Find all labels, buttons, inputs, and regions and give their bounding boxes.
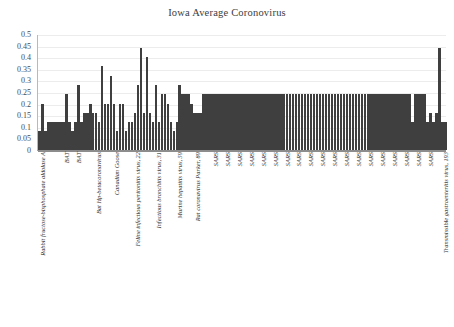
y-axis-tick-label: 0.1 xyxy=(21,124,31,132)
y-axis-tick-label: 0.25 xyxy=(17,89,31,97)
x-axis-tick-label: SARS xyxy=(368,152,374,166)
x-axis-tick-label: BAT xyxy=(76,152,82,163)
y-axis-tick-label: 0.05 xyxy=(17,135,31,143)
x-axis-tick-label: SARS xyxy=(308,152,314,166)
bar-series xyxy=(38,35,446,150)
x-axis-tick-label: SARS xyxy=(428,152,434,166)
y-axis-tick-label: 0.5 xyxy=(21,31,31,39)
y-axis-tick-label: 0.4 xyxy=(21,54,31,62)
x-axis-tick-label: SARS xyxy=(273,152,279,166)
x-axis-tick-label: SARS xyxy=(380,152,386,166)
x-axis-tick-label: SARS xyxy=(344,152,350,166)
chart-container: Iowa Average Coronovirus 0.50.450.40.350… xyxy=(0,0,454,327)
x-axis-tick-label: SARS xyxy=(285,152,291,166)
x-axis-tick-label: SARS xyxy=(249,152,255,166)
x-axis-tick-label: Canadian Goose xyxy=(114,152,120,195)
x-axis-tick-label: SARS xyxy=(213,152,219,166)
x-axis-tick-label: SARS xyxy=(404,152,410,166)
x-axis-tick-label: BAT xyxy=(64,152,70,163)
y-axis-tick-label: 0.2 xyxy=(21,101,31,109)
x-axis-labels: Rabbit fructose-bisphosphate aldolase AB… xyxy=(37,152,446,327)
y-axis-tick-label: 0.35 xyxy=(17,66,31,74)
y-axis-tick-label: 0.15 xyxy=(17,112,31,120)
y-axis-tick-label: 0.45 xyxy=(17,43,31,51)
x-axis-tick-label: Bat Hp-betacoronavirus xyxy=(96,152,102,214)
y-axis-tick-label: 0 xyxy=(27,147,31,155)
bar xyxy=(444,122,447,150)
x-axis-tick-label: SARS xyxy=(332,152,338,166)
chart-title: Iowa Average Coronovirus xyxy=(0,7,454,18)
x-axis-tick-label: SARS xyxy=(296,152,302,166)
x-axis-tick-label: Feline infectious peritonitis virus, 22 xyxy=(135,152,141,247)
x-axis-tick-label: SARS xyxy=(392,152,398,166)
x-axis-tick-label: SARS xyxy=(320,152,326,166)
x-axis-tick-label: SARS xyxy=(416,152,422,166)
x-axis-tick-label: SARS xyxy=(225,152,231,166)
y-axis-tick-label: 0.3 xyxy=(21,77,31,85)
y-axis: 0.50.450.40.350.30.250.20.150.10.050 xyxy=(0,35,34,151)
x-axis-tick-label: Rabbit fructose-bisphosphate aldolase A xyxy=(40,152,46,256)
x-axis-tick-label: Rat coronavirus Parker, 89 xyxy=(195,152,201,221)
x-axis-tick-label: Murine hepatitis virus, 59 xyxy=(177,152,183,218)
x-axis-tick-label: Infectious bronchitis virus, 31 xyxy=(156,152,162,228)
x-axis-tick-label: SARS xyxy=(237,152,243,166)
x-axis-tick-label: Transmissible gastroenteritis virus, 193 xyxy=(443,152,449,253)
plot-area xyxy=(37,35,446,151)
x-axis-tick-label: SARS xyxy=(261,152,267,166)
x-axis-tick-label: SARS xyxy=(356,152,362,166)
